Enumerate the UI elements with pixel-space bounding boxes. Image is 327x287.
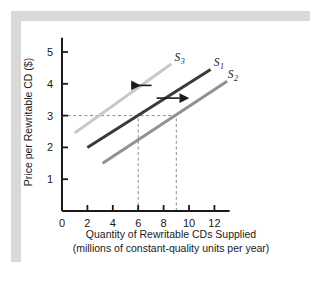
- x-axis-title-line2: (millions of constant-quality units per …: [73, 242, 270, 254]
- x-axis-title-line1: Quantity of Rewritable CDs Supplied: [86, 228, 257, 240]
- y-tick-label-3: 3: [47, 110, 53, 122]
- supply-curves: [75, 64, 227, 163]
- y-tick-label-4: 4: [47, 78, 53, 90]
- supply-curve-S2: [103, 81, 227, 163]
- series-label-S3: S3: [174, 51, 184, 66]
- y-tick-label-5: 5: [47, 46, 53, 58]
- series-label-S1: S1: [214, 56, 224, 71]
- tick-labels: 12345024681012: [47, 46, 221, 229]
- y-tick-label-2: 2: [47, 141, 53, 153]
- series-label-S2: S2: [228, 68, 238, 83]
- series-label-subscript-S1: 1: [220, 62, 224, 71]
- y-tick-label-1: 1: [47, 173, 53, 185]
- supply-chart-canvas: 12345024681012 S3S1S2 Quantity of Rewrit…: [0, 0, 327, 287]
- supply-curve-figure: 12345024681012 S3S1S2 Quantity of Rewrit…: [0, 0, 327, 287]
- y-axis-title: Price per Rewritable CD ($): [22, 58, 34, 186]
- series-label-subscript-S3: 3: [180, 57, 185, 66]
- x-tick-label-0: 0: [59, 217, 65, 229]
- series-labels: S3S1S2: [174, 51, 238, 83]
- series-label-subscript-S2: 2: [234, 74, 238, 83]
